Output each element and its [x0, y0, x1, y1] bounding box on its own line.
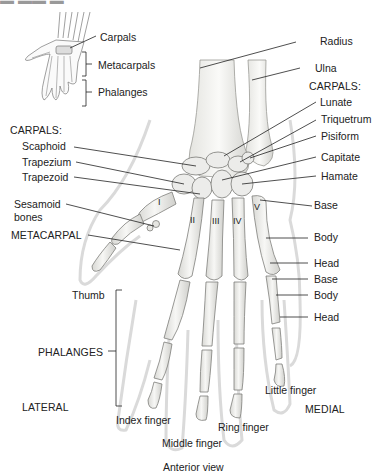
- label-metacarpal-base: Base: [314, 199, 338, 211]
- label-trapezium: Trapezium: [22, 156, 71, 168]
- label-ulna: Ulna: [315, 62, 337, 74]
- hand-skeleton-diagram: ▬ ▬▬ ▬: [0, 0, 377, 473]
- label-carpals-medial-heading: CARPALS:: [309, 80, 361, 92]
- label-thumb: Thumb: [72, 289, 105, 301]
- label-ring-finger: Ring finger: [218, 421, 269, 433]
- label-lateral: LATERAL: [22, 401, 69, 413]
- numeral-metacarpal-1: I: [158, 196, 161, 208]
- label-sesamoid-line1: Sesamoid: [14, 198, 61, 210]
- numeral-metacarpal-3: III: [212, 215, 220, 227]
- label-sesamoid-line2: bones: [14, 211, 43, 223]
- inset-label-metacarpals: Metacarpals: [98, 59, 155, 71]
- label-phalanx-base: Base: [314, 273, 338, 285]
- label-middle-finger: Middle finger: [162, 437, 222, 449]
- label-capitate: Capitate: [321, 151, 360, 163]
- inset-label-phalanges: Phalanges: [98, 86, 148, 98]
- thumb-phalanges: [92, 214, 160, 271]
- label-triquetrum: Triquetrum: [321, 113, 371, 125]
- label-medial: MEDIAL: [305, 403, 345, 415]
- label-scaphoid: Scaphoid: [22, 140, 66, 152]
- label-metacarpal-body: Body: [314, 231, 338, 243]
- label-hamate: Hamate: [321, 170, 358, 182]
- label-carpals-lateral-heading: CARPALS:: [10, 124, 62, 136]
- label-phalanx-body: Body: [314, 289, 338, 301]
- inset-label-carpals: Carpals: [100, 31, 136, 43]
- inset-hand-icon: [25, 12, 90, 100]
- label-phalanges-heading: PHALANGES: [38, 346, 103, 358]
- numeral-metacarpal-5: V: [254, 201, 260, 213]
- label-trapezoid: Trapezoid: [22, 171, 68, 183]
- numeral-metacarpal-2: II: [190, 214, 195, 226]
- label-index-finger: Index finger: [116, 414, 171, 426]
- numeral-metacarpal-4: IV: [233, 215, 242, 227]
- label-lunate: Lunate: [320, 96, 352, 108]
- label-radius: Radius: [320, 35, 353, 47]
- figure-caption-view: Anterior view: [163, 461, 224, 473]
- label-metacarpal-heading: METACARPAL: [11, 229, 82, 241]
- label-pisiform: Pisiform: [321, 130, 359, 142]
- label-metacarpal-head: Head: [314, 257, 339, 269]
- label-little-finger: Little finger: [265, 384, 316, 396]
- label-phalanx-head: Head: [314, 311, 339, 323]
